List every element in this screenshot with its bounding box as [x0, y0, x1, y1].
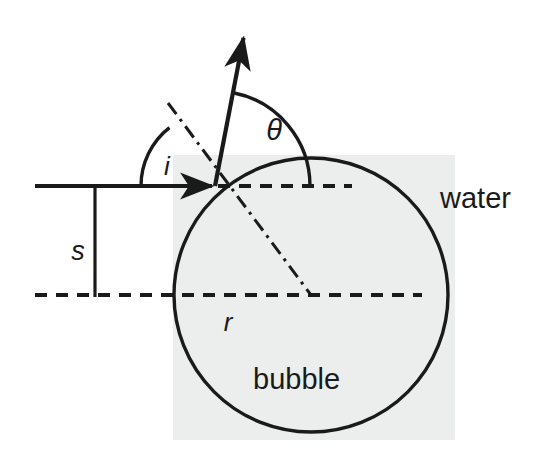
diagram-figure: i θ s r water bubble: [0, 0, 539, 463]
bubble-label: bubble: [253, 363, 340, 395]
angle-theta-label: θ: [266, 114, 282, 146]
angle-i-label: i: [164, 151, 171, 181]
radius-label: r: [224, 307, 234, 337]
water-label: water: [439, 182, 511, 214]
bubble-refraction-diagram: i θ s r water bubble: [0, 0, 539, 463]
impact-parameter-label: s: [71, 236, 85, 266]
